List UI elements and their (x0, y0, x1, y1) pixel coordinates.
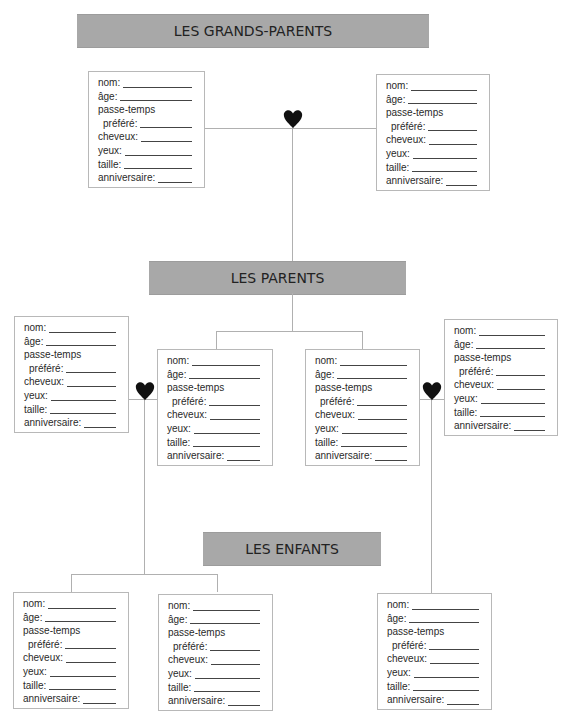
field-label: anniversaire: (315, 449, 372, 463)
field-blank-line[interactable] (46, 337, 116, 346)
field-blank-line[interactable] (413, 682, 479, 691)
field-blank-line[interactable] (125, 147, 192, 156)
field-row: anniversaire: (24, 416, 128, 430)
field-blank-line[interactable] (140, 119, 192, 128)
field-row: anniversaire: (168, 694, 272, 708)
field-blank-line[interactable] (375, 452, 407, 461)
field-label: nom: (23, 597, 45, 611)
field-blank-line[interactable] (66, 654, 116, 663)
field-blank-line[interactable] (45, 613, 116, 622)
field-blank-line[interactable] (123, 79, 192, 88)
field-blank-line[interactable] (189, 370, 260, 379)
field-blank-line[interactable] (429, 136, 477, 145)
field-label: passe-temps (23, 624, 80, 638)
field-blank-line[interactable] (408, 95, 477, 104)
field-label: taille: (387, 680, 410, 694)
field-label: âge: (454, 338, 473, 352)
field-blank-line[interactable] (210, 411, 260, 420)
field-blank-line[interactable] (84, 419, 116, 428)
field-blank-line[interactable] (413, 150, 477, 159)
field-blank-line[interactable] (193, 438, 260, 447)
field-blank-line[interactable] (411, 82, 477, 91)
field-row: taille: (24, 403, 128, 417)
field-blank-line[interactable] (49, 324, 116, 333)
field-blank-line[interactable] (412, 163, 477, 172)
field-blank-line[interactable] (211, 656, 260, 665)
field-blank-line[interactable] (480, 408, 545, 417)
field-blank-line[interactable] (209, 397, 260, 406)
field-label: taille: (23, 679, 46, 693)
field-blank-line[interactable] (192, 357, 260, 366)
field-blank-line[interactable] (83, 695, 116, 704)
field-blank-line[interactable] (447, 696, 479, 705)
grandparents-banner: LES GRANDS-PARENTS (77, 14, 429, 48)
field-blank-line[interactable] (414, 669, 479, 678)
field-row: anniversaire: (387, 693, 491, 707)
field-blank-line[interactable] (50, 405, 116, 414)
field-blank-line[interactable] (476, 340, 545, 349)
field-row: taille: (167, 436, 272, 450)
field-label: passe-temps (168, 626, 225, 640)
field-row: âge: (24, 335, 128, 349)
field-row: passe-temps (387, 625, 491, 639)
field-blank-line[interactable] (51, 392, 116, 401)
field-blank-line[interactable] (342, 425, 407, 434)
field-blank-line[interactable] (195, 670, 260, 679)
field-blank-line[interactable] (50, 668, 116, 677)
field-blank-line[interactable] (227, 452, 260, 461)
field-blank-line[interactable] (158, 174, 192, 183)
field-blank-line[interactable] (228, 697, 260, 706)
field-blank-line[interactable] (428, 122, 477, 131)
field-blank-line[interactable] (193, 602, 260, 611)
field-blank-line[interactable] (358, 411, 407, 420)
field-label: préféré: (386, 120, 425, 134)
field-blank-line[interactable] (357, 397, 407, 406)
field-row: taille: (23, 679, 128, 693)
field-blank-line[interactable] (412, 601, 479, 610)
field-blank-line[interactable] (429, 641, 479, 650)
field-row: cheveux: (387, 652, 491, 666)
field-blank-line[interactable] (67, 378, 116, 387)
field-label: anniversaire: (98, 171, 155, 185)
field-label: passe-temps (387, 625, 444, 639)
field-blank-line[interactable] (514, 422, 545, 431)
card-parent-inner-right: nom:âge:passe-tempspréféré:cheveux:yeux:… (305, 349, 420, 466)
field-blank-line[interactable] (194, 425, 260, 434)
field-label: préféré: (167, 395, 206, 409)
card-child-3: nom:âge:passe-tempspréféré:cheveux:yeux:… (377, 593, 492, 710)
field-label: passe-temps (315, 381, 372, 395)
field-blank-line[interactable] (340, 357, 407, 366)
field-row: cheveux: (386, 133, 489, 147)
field-blank-line[interactable] (48, 600, 116, 609)
field-blank-line[interactable] (65, 640, 116, 649)
field-label: taille: (386, 161, 409, 175)
field-row: nom: (386, 79, 489, 93)
field-blank-line[interactable] (409, 614, 479, 623)
field-row: taille: (386, 161, 489, 175)
field-blank-line[interactable] (337, 370, 407, 379)
field-blank-line[interactable] (124, 160, 192, 169)
field-row: nom: (98, 76, 204, 90)
field-row: anniversaire: (315, 449, 419, 463)
field-blank-line[interactable] (120, 92, 192, 101)
field-blank-line[interactable] (479, 327, 545, 336)
field-label: cheveux: (24, 375, 64, 389)
field-blank-line[interactable] (341, 438, 407, 447)
field-blank-line[interactable] (496, 367, 545, 376)
field-label: âge: (98, 90, 117, 104)
field-blank-line[interactable] (141, 133, 192, 142)
field-label: anniversaire: (454, 419, 511, 433)
field-row: cheveux: (24, 375, 128, 389)
field-blank-line[interactable] (66, 364, 116, 373)
field-blank-line[interactable] (210, 642, 260, 651)
field-blank-line[interactable] (446, 177, 477, 186)
field-blank-line[interactable] (194, 683, 260, 692)
field-blank-line[interactable] (497, 381, 545, 390)
field-blank-line[interactable] (49, 681, 116, 690)
heart-icon (282, 108, 304, 130)
connector-line (362, 331, 363, 349)
field-blank-line[interactable] (481, 395, 545, 404)
field-blank-line[interactable] (430, 655, 479, 664)
card-grandparent-left: nom:âge:passe-tempspréféré:cheveux:yeux:… (88, 71, 205, 188)
field-blank-line[interactable] (190, 615, 260, 624)
